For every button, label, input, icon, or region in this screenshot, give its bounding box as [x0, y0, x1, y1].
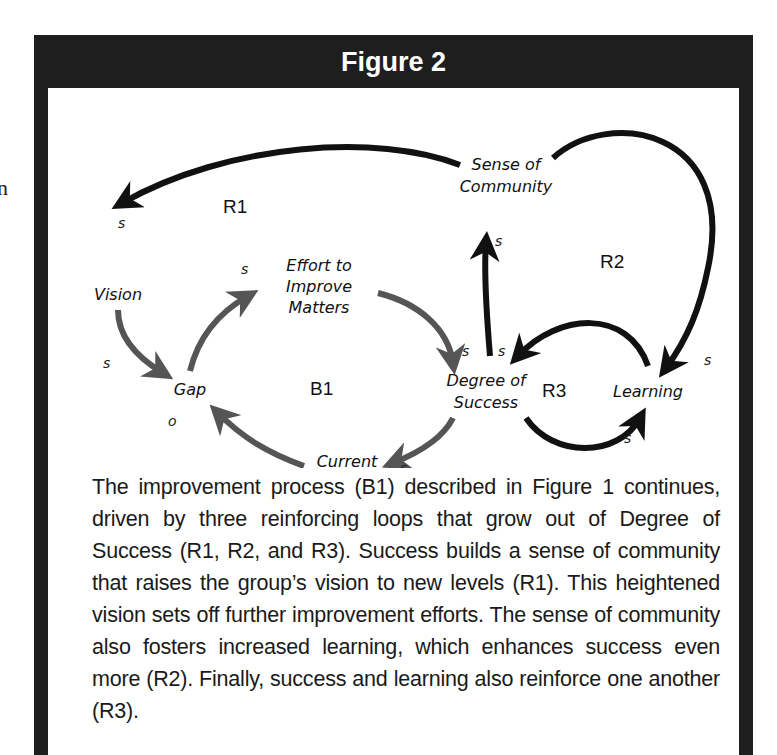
polarity-label: s: [495, 233, 502, 249]
node-vision: Vision: [94, 285, 142, 304]
node-degree-of-success: Degree of Success: [446, 371, 527, 412]
figure-title: Figure 2: [34, 40, 753, 85]
svg-text:Sense of: Sense of: [472, 155, 543, 174]
svg-text:Current: Current: [317, 452, 378, 468]
link-sense-to-learning: [553, 133, 712, 368]
link-vision-to-gap: [118, 310, 163, 373]
link-effort-to-degree: [378, 293, 453, 363]
polarity-label: s: [103, 355, 110, 371]
polarity-label: s: [498, 343, 505, 359]
svg-text:Community: Community: [460, 177, 553, 196]
svg-text:Success: Success: [454, 393, 518, 412]
link-sense-to-vision: [122, 147, 460, 203]
stray-text-fragment: n: [0, 175, 8, 201]
polarity-label: o: [168, 413, 177, 429]
node-current-reality: Current Reality: [317, 452, 378, 468]
figure-caption: The improvement process (B1) described i…: [92, 471, 720, 727]
link-gap-to-effort: [190, 296, 248, 371]
polarity-label: s: [624, 430, 631, 446]
link-learning-to-degree: [518, 323, 648, 366]
node-learning: Learning: [613, 382, 683, 401]
node-effort-to-improve-matters: Effort to Improve Matters: [286, 256, 352, 317]
causal-loop-diagram: Vision Effort to Improve Matters Sense o…: [48, 88, 739, 468]
loop-label-r3: R3: [542, 380, 566, 401]
node-sense-of-community: Sense of Community: [460, 155, 553, 196]
svg-text:Learning: Learning: [613, 382, 683, 401]
node-gap: Gap: [174, 380, 206, 399]
svg-text:Improve: Improve: [286, 277, 352, 296]
polarity-label: s: [241, 261, 248, 277]
loop-label-r1: R1: [223, 196, 247, 217]
figure-frame: Figure 2: [34, 35, 753, 755]
polarity-label: s: [462, 343, 469, 359]
polarity-label: s: [118, 215, 125, 231]
figure-body: Vision Effort to Improve Matters Sense o…: [48, 88, 739, 755]
svg-text:Effort to: Effort to: [286, 256, 352, 275]
svg-text:Matters: Matters: [289, 298, 350, 317]
polarity-label: s: [400, 460, 407, 468]
svg-text:Gap: Gap: [174, 380, 206, 399]
svg-text:Degree of: Degree of: [446, 371, 527, 390]
link-reality-to-gap: [218, 413, 304, 466]
polarity-label: s: [704, 352, 711, 368]
svg-text:Vision: Vision: [94, 285, 142, 304]
loop-label-b1: B1: [310, 378, 333, 399]
link-degree-to-learning: [526, 418, 640, 448]
link-degree-to-sense: [485, 243, 490, 356]
loop-label-r2: R2: [600, 251, 624, 272]
link-degree-to-reality: [393, 418, 453, 463]
